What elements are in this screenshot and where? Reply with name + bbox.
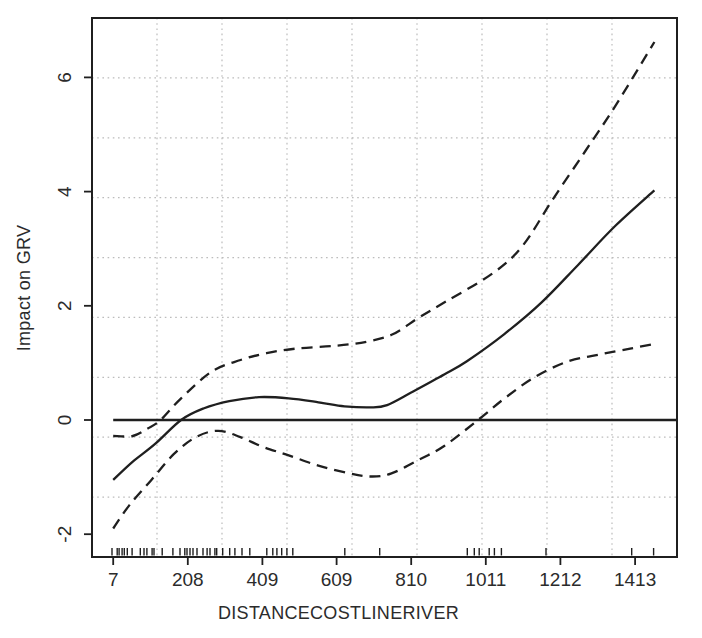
- x-tick-label: 609: [321, 569, 353, 590]
- gam-partial-effect-figure: 7208409609810101112121413-20246 DISTANCE…: [0, 0, 702, 638]
- curves-layer: [113, 42, 677, 529]
- y-tick-label: 2: [54, 301, 75, 312]
- plot-border: [92, 18, 677, 557]
- grid-layer: [92, 18, 677, 557]
- estimate-curve: [113, 190, 654, 480]
- y-tick-label: 4: [54, 186, 75, 197]
- x-tick-label: 208: [172, 569, 204, 590]
- axes-layer: [84, 18, 677, 565]
- y-tick-label: -2: [54, 526, 75, 543]
- tick-labels-layer: 7208409609810101112121413-20246: [54, 72, 656, 590]
- lower-ci-curve: [113, 344, 654, 529]
- x-tick-label: 1011: [465, 569, 506, 590]
- y-axis-title: Impact on GRV: [14, 225, 35, 352]
- x-tick-label: 1413: [614, 569, 656, 590]
- rug-layer: [112, 548, 654, 556]
- x-tick-label: 409: [247, 569, 279, 590]
- plot-canvas: 7208409609810101112121413-20246: [0, 0, 702, 638]
- x-tick-label: 7: [108, 569, 119, 590]
- y-tick-label: 0: [54, 415, 75, 426]
- x-tick-label: 1212: [539, 569, 581, 590]
- x-tick-label: 810: [395, 569, 427, 590]
- y-tick-label: 6: [54, 72, 75, 83]
- x-axis-title: DISTANCECOSTLINERIVER: [0, 603, 677, 624]
